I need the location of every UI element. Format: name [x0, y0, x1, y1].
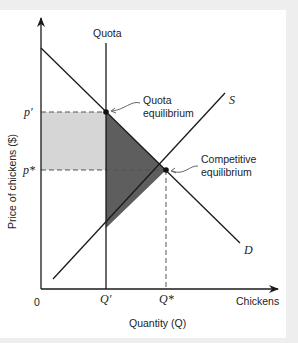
p-quota-label: p′: [23, 105, 33, 119]
q-quota-label: Q′: [100, 292, 112, 306]
quota-equilibrium-label-1: Quota: [143, 94, 172, 106]
competitive-equilibrium-dot: [163, 167, 169, 173]
y-axis-label: Price of chickens ($): [6, 134, 18, 229]
competitive-equilibrium-label-2: equilibrium: [201, 166, 252, 178]
q-star-label: Q*: [159, 292, 174, 306]
x-axis-end-label: Chickens: [236, 295, 279, 307]
quota-eq-callout-arrow: [112, 102, 140, 111]
supply-label: S: [229, 93, 235, 107]
quota-label: Quota: [93, 27, 122, 39]
x-axis-label: Quantity (Q): [129, 317, 186, 329]
shaded-rectangle: [41, 112, 106, 170]
competitive-equilibrium-label-1: Competitive: [201, 153, 257, 165]
origin-label: 0: [34, 296, 40, 308]
quota-equilibrium-dot: [103, 109, 109, 115]
competitive-eq-callout-arrow: [172, 166, 198, 172]
quota-diagram: Quota Quota equilibrium Competitive equi…: [0, 0, 298, 343]
quota-equilibrium-label-2: equilibrium: [143, 107, 194, 119]
p-star-label: p*: [22, 163, 35, 177]
demand-label: D: [243, 243, 253, 257]
